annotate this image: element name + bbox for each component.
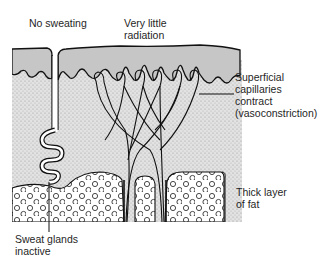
- label-radiation-line2: radiation: [124, 29, 167, 41]
- label-no-sweating-text: No sweating: [29, 17, 87, 29]
- epidermis-left: [12, 48, 52, 79]
- label-sweat-glands-line1: Sweat glands: [15, 233, 78, 245]
- label-capillaries-line1: Superficial: [235, 71, 317, 83]
- label-sweat-glands-line2: inactive: [15, 245, 78, 257]
- label-fat-line1: Thick layer: [236, 186, 287, 198]
- label-capillaries-line4: (vasoconstriction): [235, 107, 317, 119]
- label-no-sweating: No sweating: [29, 17, 87, 29]
- label-fat-line2: of fat: [236, 198, 287, 210]
- label-capillaries-line2: capillaries: [235, 83, 317, 95]
- label-radiation-line1: Very little: [124, 17, 167, 29]
- label-very-little-radiation: Very little radiation: [124, 17, 167, 41]
- fat-layer-right: [165, 172, 224, 222]
- label-superficial-capillaries: Superficial capillaries contract (vasoco…: [235, 71, 317, 119]
- label-capillaries-line3: contract: [235, 95, 317, 107]
- skin-cross-section-diagram: No sweating Very little radiation Superf…: [0, 0, 326, 268]
- label-thick-layer-of-fat: Thick layer of fat: [236, 186, 287, 210]
- label-sweat-glands-inactive: Sweat glands inactive: [15, 233, 78, 257]
- fat-layer-middle: [135, 176, 155, 222]
